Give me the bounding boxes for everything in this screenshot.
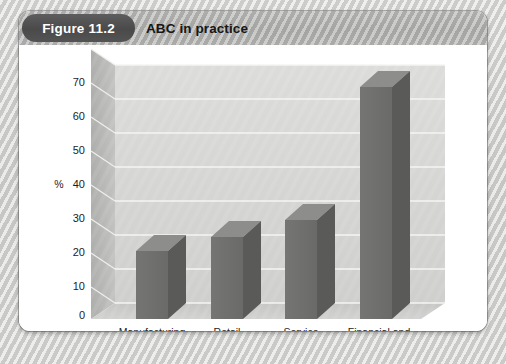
y-tick-70: 70 (73, 76, 85, 88)
y-tick-60: 60 (73, 110, 85, 122)
bar-manufacturing (136, 235, 186, 319)
y-tick-40: 40 (73, 178, 85, 190)
bar-front-face (285, 220, 317, 319)
y-tick-0: 0 (79, 309, 85, 321)
bar-front-face (211, 237, 243, 319)
figure-title: ABC in practice (146, 11, 248, 45)
y-tick-30: 30 (73, 212, 85, 224)
bar-front-face (136, 251, 168, 319)
bar-side-face (317, 204, 335, 319)
figure-header: Figure 11.2 ABC in practice (19, 11, 487, 45)
bar-financial-and-commercial (360, 71, 410, 319)
cat-label-service: Service (283, 326, 318, 331)
y-axis-title: % (54, 178, 63, 190)
bar-chart-3d: 0 10 20 30 40 50 60 70 % (19, 45, 487, 331)
y-tick-20: 20 (73, 246, 85, 258)
figure-card: Figure 11.2 ABC in practice (19, 11, 487, 331)
y-axis-ticks: 0 10 20 30 40 50 60 70 (73, 76, 85, 321)
cat-label-retail: Retail (214, 326, 241, 331)
bar-service (285, 204, 335, 319)
bar-retail (211, 221, 261, 319)
y-tick-10: 10 (73, 280, 85, 292)
cat-label-manufacturing: Manufacturing (119, 326, 186, 331)
y-tick-50: 50 (73, 144, 85, 156)
cat-label-financial-line1: Financial and (348, 326, 411, 331)
x-axis-labels: Manufacturing Retail Service Financial a… (119, 326, 411, 331)
chart-area: 0 10 20 30 40 50 60 70 % (19, 45, 487, 331)
figure-number-badge: Figure 11.2 (22, 14, 135, 42)
bar-side-face (243, 221, 261, 319)
bar-side-face (392, 71, 410, 319)
bar-front-face (360, 87, 392, 319)
